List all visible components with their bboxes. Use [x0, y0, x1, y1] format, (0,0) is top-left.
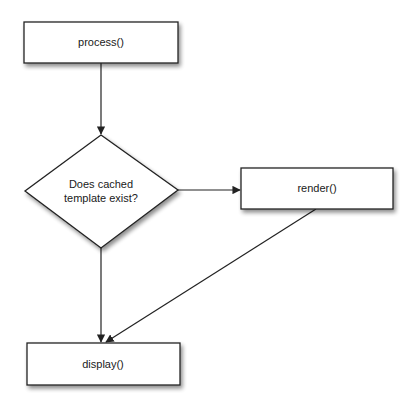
node-render: render() — [241, 168, 393, 209]
edge-render-to-display — [106, 209, 316, 342]
display-label: display() — [82, 358, 124, 370]
render-label: render() — [297, 182, 336, 194]
process-label: process() — [78, 36, 124, 48]
decision-label-line2: template exist? — [64, 192, 138, 204]
node-process: process() — [24, 22, 178, 63]
node-decision: Does cached template exist? — [25, 135, 178, 248]
flowchart-diagram: process() Does cached template exist? re… — [0, 0, 416, 410]
node-display: display() — [27, 343, 180, 385]
decision-label-line1: Does cached — [69, 178, 133, 190]
